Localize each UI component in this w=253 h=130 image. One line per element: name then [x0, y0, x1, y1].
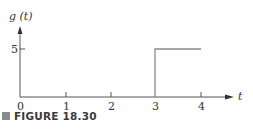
- x-tick-label-2: 2: [108, 100, 115, 113]
- caption-text: FIGURE 18.30: [14, 110, 97, 122]
- y-axis-arrow-icon: [18, 26, 23, 34]
- signal-line: [155, 49, 201, 97]
- y-axis-label: g (t): [9, 10, 33, 23]
- y-tick-label-5: 5: [11, 43, 18, 56]
- caption-square-icon: [2, 112, 10, 120]
- x-tick-label-3: 3: [152, 100, 159, 113]
- x-tick-label-4: 4: [198, 100, 205, 113]
- x-axis-label: t: [238, 90, 243, 103]
- x-axis-arrow-icon: [225, 95, 234, 100]
- figure-caption: FIGURE 18.30: [2, 110, 97, 122]
